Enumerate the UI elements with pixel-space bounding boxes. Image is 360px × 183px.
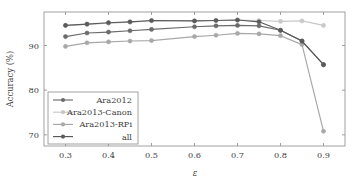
data-point-marker: [106, 30, 110, 34]
data-point-marker: [128, 20, 132, 24]
data-point-marker: [300, 39, 304, 43]
legend-label: Ara2013-Canon: [66, 107, 133, 117]
data-point-marker: [278, 34, 282, 38]
data-point-marker: [106, 40, 110, 44]
data-point-marker: [192, 25, 196, 29]
legend-label: Ara2013-RPi: [78, 119, 132, 129]
x-tick-label: 0.6: [188, 150, 201, 160]
data-point-marker: [214, 33, 218, 37]
y-tick-label: 80: [29, 85, 39, 95]
data-point-marker: [85, 22, 89, 26]
data-point-marker: [63, 23, 67, 27]
series-line: [66, 25, 324, 64]
data-point-marker: [63, 44, 67, 48]
x-axis-title: ε: [193, 168, 198, 178]
y-tick-label: 90: [29, 41, 39, 51]
x-axis-tick-labels: 0.30.40.50.60.70.80.9: [59, 150, 330, 160]
data-point-marker: [278, 19, 282, 23]
data-point-marker: [192, 19, 196, 23]
data-point-marker: [63, 34, 67, 38]
legend-swatch-marker: [61, 122, 65, 126]
data-point-marker: [235, 23, 239, 27]
legend-label: all: [122, 132, 132, 142]
legend-label: Ara2012: [95, 95, 132, 105]
data-point-marker: [278, 28, 282, 32]
data-point-marker: [214, 24, 218, 28]
data-point-marker: [106, 21, 110, 25]
data-point-marker: [300, 19, 304, 23]
chart-legend: Ara2012Ara2013-CanonAra2013-RPiall: [48, 92, 138, 144]
data-point-marker: [85, 41, 89, 45]
data-point-marker: [235, 18, 239, 22]
data-point-marker: [128, 39, 132, 43]
data-point-marker: [321, 23, 325, 27]
legend-swatch-marker: [61, 135, 65, 139]
data-point-marker: [149, 38, 153, 42]
data-point-marker: [235, 31, 239, 35]
data-point-marker: [128, 29, 132, 33]
legend-swatch-marker: [61, 98, 65, 102]
data-point-marker: [214, 18, 218, 22]
x-tick-label: 0.4: [102, 150, 115, 160]
legend-swatch-marker: [61, 110, 65, 114]
x-tick-label: 0.7: [231, 150, 244, 160]
data-point-marker: [149, 27, 153, 31]
data-point-marker: [257, 24, 261, 28]
data-point-marker: [257, 32, 261, 36]
y-tick-label: 70: [29, 130, 39, 140]
y-axis-tick-labels: 708090: [29, 41, 39, 140]
data-point-marker: [321, 129, 325, 133]
data-point-marker: [149, 18, 153, 22]
data-point-marker: [192, 34, 196, 38]
x-tick-label: 0.9: [317, 150, 330, 160]
data-point-marker: [321, 63, 325, 67]
series-ara2012: [63, 23, 325, 67]
chart-figure: 0.30.40.50.60.70.80.9 708090 ε Accuracy …: [0, 0, 360, 183]
data-point-marker: [257, 20, 261, 24]
y-axis-title: Accuracy (%): [5, 51, 15, 108]
x-tick-label: 0.3: [59, 150, 72, 160]
x-tick-label: 0.8: [274, 150, 287, 160]
x-tick-label: 0.5: [145, 150, 158, 160]
data-point-marker: [85, 31, 89, 35]
accuracy-vs-epsilon-line-chart: 0.30.40.50.60.70.80.9 708090 ε Accuracy …: [0, 0, 360, 183]
